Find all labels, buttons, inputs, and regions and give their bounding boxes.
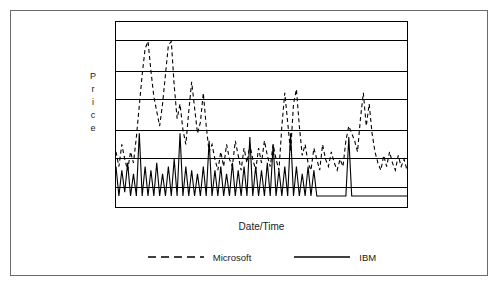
- chart-svg: [115, 21, 408, 208]
- legend-item-ibm: IBM: [293, 252, 376, 263]
- y-axis-label-letter: i: [84, 96, 102, 109]
- legend-item-microsoft: Microsoft: [147, 252, 252, 263]
- figure: P r i c e Date/Time Microsoft IBM: [0, 0, 501, 287]
- y-axis-label: P r i c e: [84, 70, 102, 135]
- legend-label-microsoft: Microsoft: [213, 252, 252, 263]
- y-axis-label-letter: e: [84, 122, 102, 135]
- legend: Microsoft IBM: [115, 248, 408, 266]
- legend-swatch-dashed-icon: [147, 252, 205, 262]
- plot-area: [115, 21, 408, 208]
- legend-label-ibm: IBM: [359, 252, 376, 263]
- y-axis-label-letter: P: [84, 70, 102, 83]
- y-axis-label-letter: r: [84, 83, 102, 96]
- x-axis-label: Date/Time: [115, 221, 408, 232]
- legend-swatch-solid-icon: [293, 252, 351, 262]
- plot-border: [116, 22, 408, 208]
- y-axis-label-letter: c: [84, 109, 102, 122]
